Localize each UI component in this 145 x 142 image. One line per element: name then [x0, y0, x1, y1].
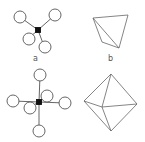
- ligand-atom: [24, 102, 36, 114]
- ligand-atom: [7, 95, 19, 107]
- panel-label-b: b: [108, 54, 113, 63]
- ligand-atom: [41, 90, 53, 102]
- tetrahedron: [93, 15, 128, 48]
- ligand-atom: [14, 11, 26, 23]
- ligand-atom: [23, 33, 35, 45]
- ligand-atom: [39, 41, 51, 53]
- central-atom: [37, 100, 42, 105]
- octahedral-model: [7, 69, 71, 137]
- ligand-atom: [49, 9, 61, 21]
- tetrahedral-model: [14, 9, 61, 53]
- molecular-geometry-diagram: [0, 0, 145, 142]
- ligand-atom: [59, 97, 71, 109]
- panel-label-a: a: [33, 54, 38, 63]
- ligand-atom: [33, 125, 45, 137]
- ligand-atom: [34, 69, 46, 81]
- octahedron: [84, 74, 137, 131]
- central-atom: [36, 28, 41, 33]
